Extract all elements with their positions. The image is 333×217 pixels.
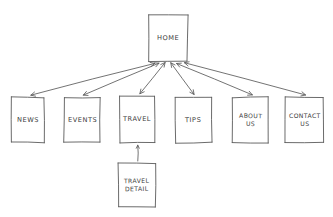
node-travel-detail[interactable]: Travel Detail (117, 162, 157, 208)
node-label-travel-detail: Travel Detail (122, 176, 152, 193)
sitemap-diagram: HomeNewsEventsTravelTipsAbout UsContact … (0, 0, 333, 217)
node-label-news: News (15, 116, 41, 125)
node-label-travel: Travel (121, 115, 153, 124)
node-tips[interactable]: Tips (174, 96, 213, 144)
node-contact-us[interactable]: Contact Us (284, 96, 325, 144)
connector-home-travel (140, 62, 165, 93)
connector-home-about-us (177, 63, 253, 95)
connector-home-contact-us (184, 62, 305, 96)
node-news[interactable]: News (10, 96, 46, 144)
node-label-tips: Tips (183, 116, 204, 125)
node-about-us[interactable]: About Us (231, 96, 270, 144)
node-home[interactable]: Home (147, 13, 189, 63)
node-label-home: Home (155, 34, 181, 43)
connector-home-tips (171, 63, 194, 95)
connector-home-events (83, 63, 159, 96)
node-label-contact-us: Contact Us (287, 112, 323, 129)
node-travel[interactable]: Travel (118, 95, 156, 144)
node-events[interactable]: Events (63, 96, 102, 144)
node-label-events: Events (66, 116, 99, 125)
connector-travel-travel-detail (136, 145, 139, 161)
node-label-about-us: About Us (237, 111, 265, 129)
